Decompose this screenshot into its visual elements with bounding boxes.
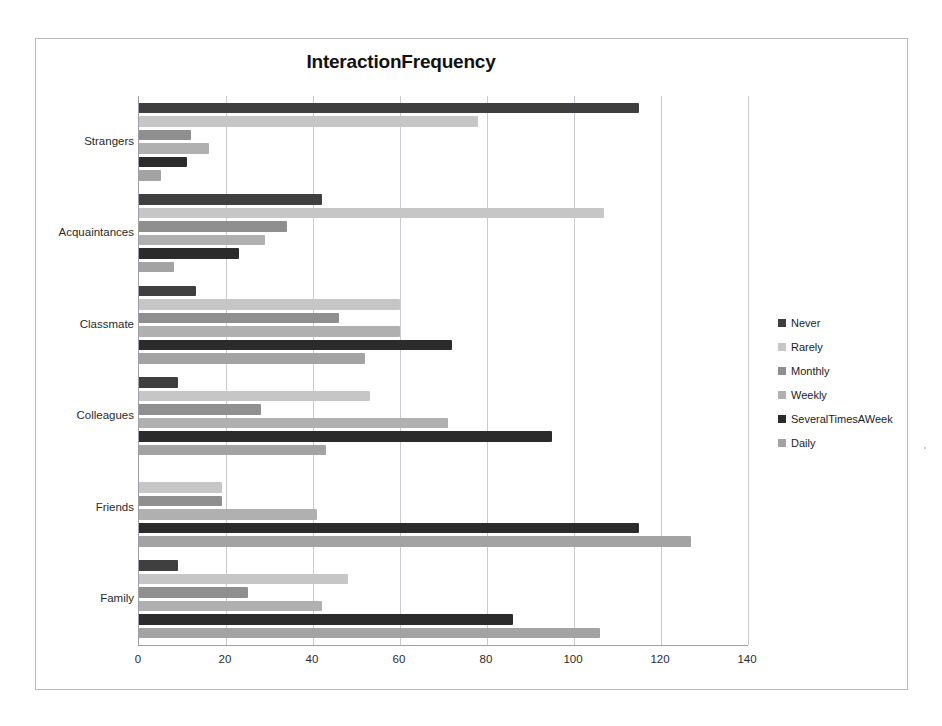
bar bbox=[139, 157, 187, 168]
plot-area bbox=[138, 96, 748, 646]
bar-row bbox=[139, 377, 748, 388]
legend-label: Monthly bbox=[791, 366, 830, 377]
legend-swatch-icon bbox=[778, 343, 786, 351]
x-tick-label-60: 60 bbox=[393, 653, 406, 665]
bar bbox=[139, 482, 222, 493]
bar bbox=[139, 431, 552, 442]
bar-row bbox=[139, 482, 748, 493]
bar bbox=[139, 143, 209, 154]
bar-group bbox=[139, 462, 748, 554]
legend-item-weekly[interactable]: Weekly bbox=[778, 383, 908, 407]
bar-row bbox=[139, 299, 748, 310]
legend-swatch-icon bbox=[778, 319, 786, 327]
bar-row bbox=[139, 116, 748, 127]
x-tick-label-80: 80 bbox=[480, 653, 493, 665]
bar bbox=[139, 536, 691, 547]
bar bbox=[139, 601, 322, 612]
bar-row bbox=[139, 326, 748, 337]
bar bbox=[139, 509, 317, 520]
category-label-acquaintances: Acquaintances bbox=[34, 226, 134, 238]
category-label-colleagues: Colleagues bbox=[34, 409, 134, 421]
x-tick-label-0: 0 bbox=[135, 653, 141, 665]
bar-row bbox=[139, 170, 748, 181]
legend-item-rarely[interactable]: Rarely bbox=[778, 335, 908, 359]
bar bbox=[139, 340, 452, 351]
category-label-family: Family bbox=[34, 592, 134, 604]
bar-row bbox=[139, 340, 748, 351]
chart-title: InteractionFrequency bbox=[36, 51, 766, 73]
bar bbox=[139, 418, 448, 429]
bar-row bbox=[139, 103, 748, 114]
legend-swatch-icon bbox=[778, 439, 786, 447]
legend-label: Daily bbox=[791, 438, 815, 449]
bar bbox=[139, 194, 322, 205]
bar bbox=[139, 208, 604, 219]
bar-row bbox=[139, 628, 748, 639]
gridline-140 bbox=[748, 96, 749, 645]
bar bbox=[139, 235, 265, 246]
legend-item-never[interactable]: Never bbox=[778, 311, 908, 335]
bar bbox=[139, 496, 222, 507]
legend-swatch-icon bbox=[778, 391, 786, 399]
bar-row bbox=[139, 248, 748, 259]
bar-row bbox=[139, 208, 748, 219]
legend-item-monthly[interactable]: Monthly bbox=[778, 359, 908, 383]
x-axis-tick-labels: 020406080100120140 bbox=[138, 653, 747, 673]
bar bbox=[139, 248, 239, 259]
chart-legend: NeverRarelyMonthlyWeeklySeveralTimesAWee… bbox=[778, 311, 908, 455]
bar bbox=[139, 286, 196, 297]
bar-row bbox=[139, 614, 748, 625]
legend-swatch-icon bbox=[778, 415, 786, 423]
bar bbox=[139, 116, 478, 127]
bar bbox=[139, 574, 348, 585]
bar-group bbox=[139, 188, 748, 280]
bar bbox=[139, 262, 174, 273]
bar-group bbox=[139, 96, 748, 188]
bar bbox=[139, 628, 600, 639]
bar-row bbox=[139, 587, 748, 598]
bar-row bbox=[139, 536, 748, 547]
x-tick-label-140: 140 bbox=[737, 653, 756, 665]
chart-frame: InteractionFrequency StrangersAcquaintan… bbox=[35, 38, 908, 690]
bar-row bbox=[139, 391, 748, 402]
bar bbox=[139, 353, 365, 364]
x-tick-label-20: 20 bbox=[219, 653, 232, 665]
bar bbox=[139, 299, 400, 310]
bar-row bbox=[139, 560, 748, 571]
bar-row bbox=[139, 404, 748, 415]
scan-speck bbox=[924, 447, 926, 449]
bar bbox=[139, 560, 178, 571]
bar bbox=[139, 587, 248, 598]
bar bbox=[139, 326, 400, 337]
bar-group bbox=[139, 554, 748, 646]
category-axis-labels: StrangersAcquaintancesClassmateColleague… bbox=[36, 96, 134, 645]
bar-group bbox=[139, 279, 748, 371]
bar bbox=[139, 130, 191, 141]
legend-swatch-icon bbox=[778, 367, 786, 375]
bar-row bbox=[139, 194, 748, 205]
legend-item-daily[interactable]: Daily bbox=[778, 431, 908, 455]
bar-row bbox=[139, 235, 748, 246]
bar bbox=[139, 170, 161, 181]
bar-row bbox=[139, 509, 748, 520]
legend-label: SeveralTimesAWeek bbox=[791, 414, 893, 425]
bar-row bbox=[139, 221, 748, 232]
bar-row bbox=[139, 418, 748, 429]
bar-row bbox=[139, 469, 748, 480]
bar-row bbox=[139, 523, 748, 534]
x-tick-label-40: 40 bbox=[306, 653, 319, 665]
bar-row bbox=[139, 353, 748, 364]
legend-label: Weekly bbox=[791, 390, 827, 401]
legend-item-severaltimesaweek[interactable]: SeveralTimesAWeek bbox=[778, 407, 908, 431]
x-tick-label-120: 120 bbox=[650, 653, 669, 665]
bar-row bbox=[139, 574, 748, 585]
bar-row bbox=[139, 431, 748, 442]
bar bbox=[139, 221, 287, 232]
bar bbox=[139, 404, 261, 415]
bar-row bbox=[139, 157, 748, 168]
bar-row bbox=[139, 286, 748, 297]
bar-row bbox=[139, 496, 748, 507]
bar-row bbox=[139, 601, 748, 612]
category-label-classmate: Classmate bbox=[34, 318, 134, 330]
bar bbox=[139, 523, 639, 534]
